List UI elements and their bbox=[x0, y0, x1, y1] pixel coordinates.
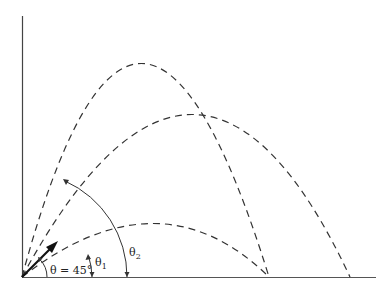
theta2-symbol: θ bbox=[129, 246, 136, 259]
theta2-subscript: 2 bbox=[136, 252, 141, 261]
label-theta-45: θ = 45° bbox=[50, 264, 92, 277]
trajectory-high-angle bbox=[22, 64, 269, 278]
label-theta2: θ2 bbox=[129, 246, 141, 261]
trajectory-45-degree bbox=[22, 115, 350, 278]
theta1-subscript: 1 bbox=[102, 262, 107, 271]
angle-arc-theta2-base-arrow bbox=[125, 272, 130, 277]
projectile-diagram bbox=[0, 0, 392, 296]
label-theta1: θ1 bbox=[95, 256, 107, 271]
angle-arc-theta1-arrowhead bbox=[86, 254, 92, 260]
theta1-symbol: θ bbox=[95, 256, 102, 269]
